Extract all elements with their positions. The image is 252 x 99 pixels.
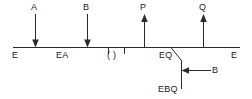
axis-label-ea: EA: [56, 50, 68, 60]
arrow-p-label: P: [140, 2, 146, 12]
branch-terminal-label: EBQ: [158, 84, 178, 94]
diagram-canvas: A B P Q E EA ( ) EQ E B EBQ: [0, 0, 252, 99]
branch-arrow-b-head-icon: [182, 67, 190, 73]
axis-label-eq: EQ: [159, 50, 172, 60]
arrow-b-top-label: B: [83, 2, 89, 12]
axis-label-empty-parens: ( ): [107, 50, 116, 60]
diagram-graphics: [0, 0, 252, 99]
arrow-a-label: A: [31, 2, 37, 12]
axis-label-e-left: E: [12, 50, 18, 60]
arrow-p-head-icon: [141, 14, 148, 22]
arrow-q-label: Q: [199, 2, 206, 12]
arrow-b-top-head-icon: [84, 40, 91, 48]
arrow-q-head-icon: [200, 14, 207, 22]
arrow-a-head-icon: [32, 40, 39, 48]
axis-label-e-right: E: [231, 50, 237, 60]
branch-arrow-b-label: B: [212, 65, 218, 75]
branch-diagonal-segment: [171, 48, 181, 61]
